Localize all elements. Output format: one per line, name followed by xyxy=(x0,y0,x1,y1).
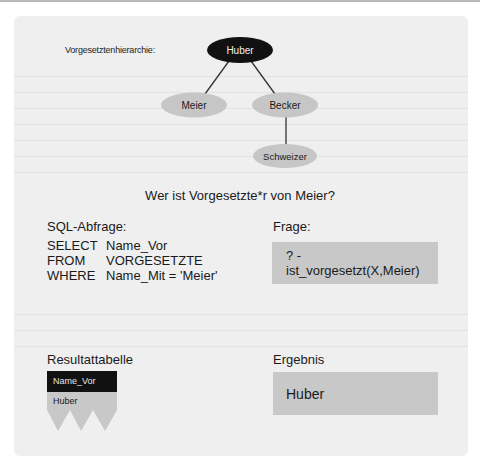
result-table-cell: Huber xyxy=(47,392,117,410)
node-schweizer[interactable]: Schweizer xyxy=(253,144,317,168)
result-box: Huber xyxy=(273,372,438,415)
sql-line-from: FROMVORGESETZTE xyxy=(47,253,218,268)
result-value: Huber xyxy=(286,386,324,402)
question-text: Wer ist Vorgesetzte*r von Meier? xyxy=(0,188,480,203)
sql-value: Name_Mit = 'Meier' xyxy=(106,268,218,283)
prolog-heading: Frage: xyxy=(273,219,311,234)
sql-heading: SQL-Abfrage: xyxy=(47,219,127,234)
node-becker[interactable]: Becker xyxy=(252,93,318,118)
node-becker-label: Becker xyxy=(269,100,301,111)
result-table-column-header: Name_Vor xyxy=(47,371,117,392)
sql-keyword: SELECT xyxy=(47,238,106,253)
node-meier-label: Meier xyxy=(181,100,207,111)
result-heading: Ergebnis xyxy=(273,352,324,367)
result-table-heading: Resultattabelle xyxy=(47,352,133,367)
sql-query: SELECTName_Vor FROMVORGESETZTE WHEREName… xyxy=(47,238,218,283)
node-meier[interactable]: Meier xyxy=(161,93,227,118)
sql-keyword: WHERE xyxy=(47,268,106,283)
node-huber-label: Huber xyxy=(226,45,254,56)
edge-huber-becker xyxy=(251,61,275,94)
sql-value: VORGESETZTE xyxy=(106,253,203,268)
sql-line-where: WHEREName_Mit = 'Meier' xyxy=(47,268,218,283)
sql-line-select: SELECTName_Vor xyxy=(47,238,218,253)
prolog-query-box: ? - ist_vorgesetzt(X,Meier) xyxy=(272,242,438,284)
sql-keyword: FROM xyxy=(47,253,106,268)
node-schweizer-label: Schweizer xyxy=(263,151,307,162)
prolog-query: ? - ist_vorgesetzt(X,Meier) xyxy=(286,248,438,278)
node-huber[interactable]: Huber xyxy=(207,37,273,63)
edge-huber-meier xyxy=(205,61,229,94)
sql-value: Name_Vor xyxy=(106,238,167,253)
